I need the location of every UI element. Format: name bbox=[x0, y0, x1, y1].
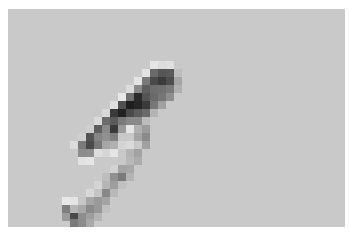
image-pixel bbox=[150, 69, 158, 77]
image-pixel bbox=[142, 141, 150, 149]
image-pixel bbox=[110, 109, 118, 117]
image-pixel bbox=[174, 77, 182, 85]
image-pixel bbox=[94, 141, 102, 149]
image-pixel bbox=[134, 133, 142, 141]
image-pixel bbox=[102, 109, 110, 117]
image-pixel bbox=[78, 205, 86, 213]
image-pixel bbox=[118, 125, 126, 133]
image-pixel bbox=[110, 141, 118, 149]
image-pixel bbox=[174, 69, 182, 77]
image-pixel bbox=[150, 101, 158, 109]
image-pixel bbox=[94, 181, 102, 189]
image-pixel bbox=[158, 69, 166, 77]
image-pixel bbox=[174, 85, 182, 93]
image-pixel bbox=[118, 109, 126, 117]
image-pixel bbox=[94, 205, 102, 213]
image-pixel bbox=[78, 219, 86, 227]
image-pixel bbox=[86, 219, 94, 227]
image-pixel bbox=[166, 77, 174, 85]
image-pixel bbox=[134, 157, 142, 165]
image-pixel bbox=[158, 101, 166, 109]
image-pixel bbox=[102, 181, 110, 189]
image-pixel bbox=[118, 165, 126, 173]
image-pixel bbox=[110, 189, 118, 197]
image-pixel bbox=[142, 125, 150, 133]
image-pixel bbox=[134, 125, 142, 133]
image-pixel bbox=[134, 93, 142, 101]
image-pixel bbox=[94, 125, 102, 133]
image-pixel bbox=[86, 197, 94, 205]
image-pixel bbox=[102, 117, 110, 125]
image-pixel bbox=[70, 197, 78, 205]
image-pixel bbox=[102, 197, 110, 205]
image-pixel bbox=[142, 101, 150, 109]
image-pixel bbox=[102, 133, 110, 141]
image-pixel bbox=[158, 77, 166, 85]
image-pixel bbox=[166, 93, 174, 101]
image-pixel bbox=[126, 93, 134, 101]
image-pixel bbox=[110, 149, 118, 157]
image-pixel bbox=[134, 101, 142, 109]
image-pixel bbox=[110, 117, 118, 125]
image-pixel bbox=[126, 173, 134, 181]
image-pixel bbox=[118, 133, 126, 141]
image-pixel bbox=[134, 117, 142, 125]
image-pixel bbox=[86, 125, 94, 133]
image-pixel bbox=[150, 61, 158, 69]
image-pixel bbox=[62, 197, 70, 205]
image-pixel bbox=[94, 149, 102, 157]
image-pixel bbox=[126, 109, 134, 117]
image-pixel bbox=[134, 149, 142, 157]
image-pixel bbox=[70, 141, 78, 149]
image-pixel bbox=[86, 189, 94, 197]
image-pixel bbox=[142, 133, 150, 141]
image-pixel bbox=[78, 149, 86, 157]
image-pixel bbox=[126, 149, 134, 157]
image-pixel bbox=[134, 109, 142, 117]
image-pixel bbox=[118, 157, 126, 165]
image-pixel bbox=[166, 69, 174, 77]
image-pixel bbox=[142, 93, 150, 101]
image-pixel bbox=[118, 93, 126, 101]
image-pixel bbox=[158, 93, 166, 101]
image-pixel bbox=[94, 189, 102, 197]
image-pixel bbox=[78, 157, 86, 165]
image-pixel bbox=[126, 125, 134, 133]
image-pixel bbox=[142, 109, 150, 117]
image-pixel bbox=[118, 117, 126, 125]
image-pixel bbox=[126, 117, 134, 125]
image-pixel bbox=[110, 165, 118, 173]
image-pixel bbox=[110, 125, 118, 133]
image-pixel bbox=[102, 125, 110, 133]
image-pixel bbox=[102, 205, 110, 213]
image-pixel bbox=[94, 197, 102, 205]
image-pixel bbox=[142, 117, 150, 125]
image-pixel bbox=[86, 141, 94, 149]
image-pixel bbox=[70, 205, 78, 213]
image-pixel bbox=[158, 61, 166, 69]
image-pixel bbox=[134, 85, 142, 93]
image-pixel bbox=[102, 141, 110, 149]
image-pixel bbox=[78, 133, 86, 141]
image-pixel bbox=[86, 149, 94, 157]
image-pixel bbox=[126, 101, 134, 109]
image-pixel bbox=[102, 173, 110, 181]
image-pixel bbox=[102, 149, 110, 157]
image-pixel bbox=[166, 61, 174, 69]
image-pixel bbox=[126, 85, 134, 93]
image-pixel bbox=[166, 85, 174, 93]
image-pixel bbox=[150, 109, 158, 117]
image-pixel bbox=[118, 101, 126, 109]
image-pixel bbox=[94, 213, 102, 221]
image-pixel bbox=[86, 157, 94, 165]
image-pixel bbox=[158, 85, 166, 93]
image-pixel bbox=[62, 205, 70, 213]
image-pixel bbox=[142, 85, 150, 93]
image-pixel bbox=[102, 189, 110, 197]
image-pixel bbox=[126, 165, 134, 173]
image-pixel bbox=[110, 181, 118, 189]
image-pixel bbox=[126, 141, 134, 149]
image-pixel bbox=[118, 173, 126, 181]
image-pixel bbox=[110, 133, 118, 141]
image-pixel bbox=[134, 77, 142, 85]
